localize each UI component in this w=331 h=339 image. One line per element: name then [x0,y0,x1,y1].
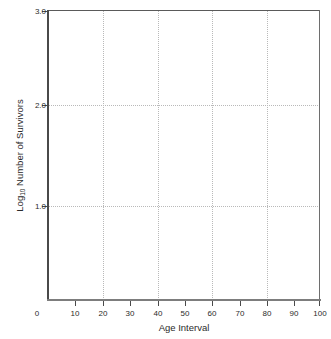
gridline-vertical-40 [158,11,159,300]
x-tick-100 [319,301,320,306]
x-tick-label-20: 20 [91,309,115,318]
x-tick-20 [103,301,104,306]
x-tick-40 [158,301,159,306]
x-tick-label-90: 90 [282,309,306,318]
x-tick-label-30: 30 [118,309,142,318]
x-tick-50 [185,301,186,306]
x-tick-label-100: 100 [308,309,331,318]
x-tick-70 [240,301,241,306]
gridline-vertical-60 [212,11,213,300]
x-tick-label-0: 0 [25,309,49,318]
x-axis-label: Age Interval [48,322,320,333]
x-tick-90 [294,301,295,306]
plot-area [48,11,320,300]
x-tick-label-40: 40 [146,309,170,318]
y-axis-label-base: Log [14,196,25,212]
gridline-vertical-80 [267,11,268,300]
x-tick-label-60: 60 [200,309,224,318]
gridline-vertical-20 [103,11,104,300]
x-tick-label-10: 10 [63,309,87,318]
y-axis-label-rest: Number of Survivors [14,99,25,188]
gridline-horizontal-1 [48,206,320,207]
x-tick-60 [212,301,213,306]
y-axis-line [47,10,49,301]
y-axis-label: Log10 Number of Survivors [14,11,28,300]
y-axis-label-subscript: 10 [19,189,26,196]
x-tick-30 [130,301,131,306]
gridline-horizontal-2 [48,105,320,106]
x-tick-10 [75,301,76,306]
plot-frame-top [48,10,320,11]
plot-frame-right [319,10,320,301]
x-axis-line [47,299,321,301]
x-tick-label-70: 70 [228,309,252,318]
x-tick-label-80: 80 [255,309,279,318]
x-tick-label-50: 50 [173,309,197,318]
x-tick-80 [267,301,268,306]
